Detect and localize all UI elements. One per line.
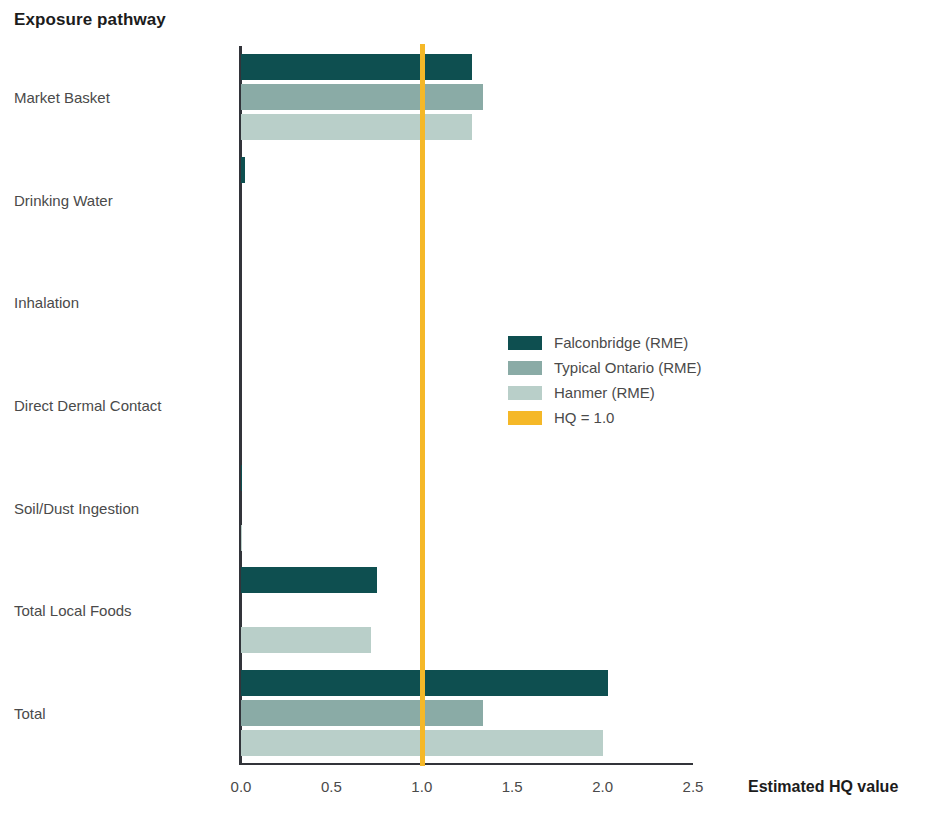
x-tick-label: 2.0 bbox=[592, 778, 613, 795]
y-tick-label: Total bbox=[14, 704, 46, 721]
legend-item-label: Typical Ontario (RME) bbox=[554, 359, 702, 376]
x-tick-label: 1.0 bbox=[411, 778, 432, 795]
legend-item-label: Hanmer (RME) bbox=[554, 384, 655, 401]
bar bbox=[241, 465, 242, 491]
y-tick-label: Inhalation bbox=[14, 294, 79, 311]
chart-legend: Falconbridge (RME)Typical Ontario (RME)H… bbox=[508, 330, 702, 430]
y-tick-label: Soil/Dust Ingestion bbox=[14, 499, 139, 516]
hq-reference-line bbox=[420, 44, 425, 766]
legend-item[interactable]: Hanmer (RME) bbox=[508, 380, 702, 405]
bar-group bbox=[241, 46, 693, 149]
legend-item-label: Falconbridge (RME) bbox=[554, 334, 688, 351]
y-tick-label: Drinking Water bbox=[14, 191, 113, 208]
legend-swatch-icon bbox=[508, 336, 542, 350]
y-tick-label: Market Basket bbox=[14, 89, 110, 106]
x-axis-title: Estimated HQ value bbox=[748, 778, 898, 796]
bar-group bbox=[241, 456, 693, 559]
legend-swatch-icon bbox=[508, 386, 542, 400]
y-tick-label: Total Local Foods bbox=[14, 602, 132, 619]
legend-item[interactable]: HQ = 1.0 bbox=[508, 405, 702, 430]
bar-chart: Exposure pathway Market BasketDrinking W… bbox=[0, 0, 938, 826]
x-tick-label: 2.5 bbox=[683, 778, 704, 795]
bar bbox=[241, 84, 483, 110]
legend-swatch-icon bbox=[508, 361, 542, 375]
bar bbox=[241, 157, 245, 183]
chart-title: Exposure pathway bbox=[14, 10, 166, 30]
x-tick-label: 0.5 bbox=[321, 778, 342, 795]
bar bbox=[241, 700, 483, 726]
legend-item-label: HQ = 1.0 bbox=[554, 409, 614, 426]
bar bbox=[241, 54, 472, 80]
bar bbox=[241, 567, 377, 593]
bar-group bbox=[241, 661, 693, 764]
legend-item[interactable]: Typical Ontario (RME) bbox=[508, 355, 702, 380]
x-tick-label: 1.5 bbox=[502, 778, 523, 795]
bar-group bbox=[241, 559, 693, 662]
legend-item[interactable]: Falconbridge (RME) bbox=[508, 330, 702, 355]
x-tick-label: 0.0 bbox=[231, 778, 252, 795]
bar bbox=[241, 114, 472, 140]
bar bbox=[241, 627, 371, 653]
bar-group bbox=[241, 149, 693, 252]
bar bbox=[241, 525, 242, 551]
legend-swatch-icon bbox=[508, 411, 542, 425]
y-tick-label: Direct Dermal Contact bbox=[14, 397, 162, 414]
